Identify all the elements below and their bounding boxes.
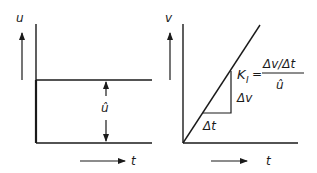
equals-sign: = (252, 67, 262, 81)
t-axis-label-left: t (131, 154, 137, 168)
delta-v-label: Δv (236, 91, 253, 105)
left-step-plot: u û t (16, 11, 152, 168)
v-axis-label: v (165, 11, 173, 25)
gain-subscript: I (246, 75, 249, 85)
t-axis-label-right: t (266, 154, 272, 168)
fraction-numerator: Δv/Δt (262, 57, 297, 71)
delta-t-label: Δt (202, 119, 217, 133)
right-ramp-plot: v Δt Δv K I = Δv/Δt û t (165, 11, 304, 168)
u-axis-label: u (16, 11, 24, 25)
fraction-denominator: û (276, 78, 284, 92)
amplitude-label: û (101, 101, 109, 115)
